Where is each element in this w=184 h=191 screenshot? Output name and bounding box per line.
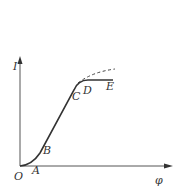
diagram-canvas: I φ O A B C D E [0, 0, 184, 191]
point-label-a: A [31, 164, 40, 177]
origin-label: O [14, 170, 23, 183]
x-axis-arrow-icon [164, 164, 173, 169]
point-label-d: D [82, 84, 92, 97]
point-label-b: B [42, 144, 51, 157]
solid-curve [20, 80, 113, 166]
point-label-c: C [72, 90, 81, 103]
point-label-e: E [105, 80, 114, 93]
y-axis-arrow-icon [18, 56, 23, 64]
y-axis-label: I [12, 60, 18, 73]
x-axis-label: φ [155, 174, 163, 187]
